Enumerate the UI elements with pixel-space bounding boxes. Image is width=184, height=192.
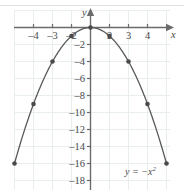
y-tick-label-neg6: –6 [56, 74, 85, 85]
data-point [164, 161, 169, 166]
y-tick-label-neg16: –16 [56, 159, 85, 170]
data-point [31, 102, 36, 107]
y-tick-label-neg12: –12 [56, 125, 85, 136]
y-tick-label-neg2: –2 [56, 40, 85, 51]
x-axis-label: x [171, 30, 176, 41]
y-axis [87, 8, 94, 190]
equation-label: y = −x2 [125, 166, 156, 177]
y-tick-label-neg10: –10 [56, 108, 85, 119]
y-tick-label-neg8: –8 [56, 91, 85, 102]
equation-exponent: 2 [152, 165, 156, 173]
x-tick-label-2: 2 [101, 31, 119, 42]
x-tick-label-3: 3 [120, 31, 138, 42]
graph-figure: –4 –3 –2 2 3 4 –2 –4 –6 –8 –10 –12 –14 –… [0, 0, 184, 192]
y-tick-label-neg14: –14 [56, 142, 85, 153]
x-tick-label-4: 4 [139, 31, 157, 42]
data-point [126, 59, 131, 64]
data-point [145, 102, 150, 107]
equation-text: y = −x [125, 166, 152, 177]
y-tick-label-neg18: –18 [56, 176, 85, 187]
y-axis-label: y [82, 8, 87, 19]
data-point [88, 25, 93, 30]
data-point [50, 59, 55, 64]
y-tick-label-neg4: –4 [56, 57, 85, 68]
data-point [12, 161, 17, 166]
coordinate-plane-svg [0, 0, 184, 192]
